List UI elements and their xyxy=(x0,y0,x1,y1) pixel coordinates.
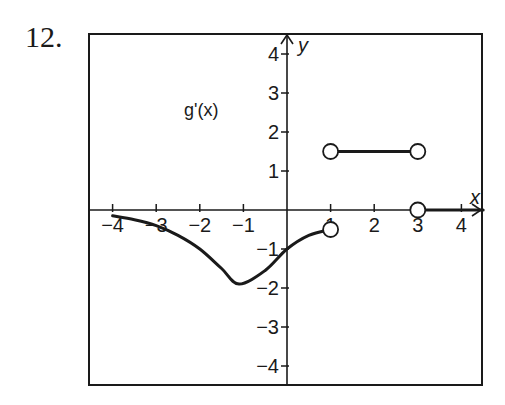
x-axis-label: x xyxy=(469,186,481,208)
y-tick-label: 4 xyxy=(268,43,279,65)
y-axis-label: y xyxy=(296,34,309,56)
y-tick-label: 3 xyxy=(268,82,279,104)
x-tick-label: −2 xyxy=(188,214,211,236)
x-tick-label: 4 xyxy=(456,214,467,236)
open-point-marker xyxy=(323,144,338,159)
open-point-marker xyxy=(323,222,338,237)
derivative-graph: −4−3−2−112344321−1−2−3−4 x y g'(x) xyxy=(0,0,505,405)
x-tick-label: 2 xyxy=(369,214,380,236)
open-point-marker xyxy=(410,203,425,218)
x-tick-label: −1 xyxy=(232,214,255,236)
y-tick-label: 1 xyxy=(268,160,279,182)
open-point-marker xyxy=(410,144,425,159)
y-tick-label: −3 xyxy=(256,316,279,338)
function-label: g'(x) xyxy=(184,100,218,120)
y-tick-label: −2 xyxy=(256,277,279,299)
y-tick-label: −4 xyxy=(256,355,279,377)
y-tick-label: −1 xyxy=(256,238,279,260)
plot-series xyxy=(113,152,484,285)
y-tick-label: 2 xyxy=(268,121,279,143)
